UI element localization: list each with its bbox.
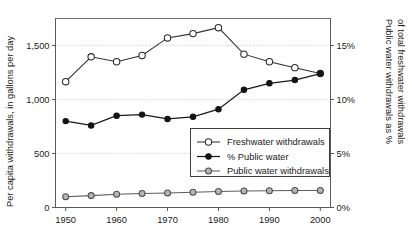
- right-tick-label: 0%: [337, 203, 350, 213]
- data-point: [114, 191, 120, 197]
- data-point: [139, 190, 145, 196]
- x-tick-label: 1980: [208, 215, 229, 225]
- chart-legend[interactable]: Freshwater withdrawals% Public waterPubl…: [191, 129, 330, 177]
- x-tick-label: 2000: [310, 215, 331, 225]
- plot-area: [56, 19, 331, 208]
- data-point: [215, 24, 221, 30]
- data-point: [190, 30, 196, 36]
- line-chart: 05001,0001,500 0%5%10%15% 19501960197019…: [0, 0, 412, 246]
- data-point: [88, 123, 93, 128]
- data-point: [88, 54, 94, 60]
- data-point: [190, 114, 195, 119]
- data-point: [215, 189, 221, 195]
- data-point: [165, 116, 170, 121]
- data-point: [164, 35, 170, 41]
- legend-marker: [206, 168, 212, 174]
- data-point: [114, 113, 119, 118]
- left-tick-label: 0: [44, 203, 49, 213]
- legend-label: Public water withdrawals: [227, 166, 329, 176]
- chart-figure: 05001,0001,500 0%5%10%15% 19501960197019…: [0, 0, 412, 246]
- data-point: [292, 77, 297, 82]
- data-point: [113, 59, 119, 65]
- data-point: [266, 59, 272, 65]
- x-tick-label: 1950: [55, 215, 76, 225]
- data-point: [241, 51, 247, 57]
- legend-label: % Public water: [227, 152, 289, 162]
- x-tick-label: 1990: [259, 215, 280, 225]
- data-point: [88, 193, 94, 199]
- data-point: [190, 189, 196, 195]
- data-point: [139, 52, 145, 58]
- left-tick-label: 1,000: [26, 95, 49, 105]
- data-point: [241, 188, 247, 194]
- x-axis-ticks: 195019601970198019902000: [55, 208, 330, 225]
- right-axis-ticks: 0%5%10%15%: [331, 41, 356, 213]
- left-tick-label: 500: [34, 149, 50, 159]
- legend-marker: [206, 154, 211, 159]
- left-axis-ticks: 05001,0001,500: [26, 41, 55, 213]
- legend-label: Freshwater withdrawals: [227, 137, 325, 147]
- data-point: [292, 188, 298, 194]
- data-point: [266, 188, 272, 194]
- data-point: [63, 194, 69, 200]
- data-point: [317, 187, 323, 193]
- data-point: [139, 112, 144, 117]
- left-axis-title: Per capita withdrawals, in gallons per d…: [5, 36, 15, 207]
- data-point: [165, 190, 171, 196]
- data-point: [318, 71, 323, 76]
- data-point: [241, 87, 246, 92]
- x-tick-label: 1960: [106, 215, 127, 225]
- data-point: [62, 78, 68, 84]
- right-axis-title-line2: of total freshwater withdrawals: [396, 19, 406, 144]
- right-axis-title-line1: Public water withdrawals as %: [384, 19, 394, 144]
- data-point: [63, 118, 68, 123]
- x-tick-label: 1970: [157, 215, 178, 225]
- right-tick-label: 5%: [337, 149, 350, 159]
- legend-marker: [205, 139, 211, 145]
- left-tick-label: 1,500: [26, 41, 49, 51]
- data-point: [292, 64, 298, 70]
- data-point: [267, 81, 272, 86]
- right-tick-label: 15%: [337, 41, 356, 51]
- right-tick-label: 10%: [337, 95, 356, 105]
- data-point: [216, 107, 221, 112]
